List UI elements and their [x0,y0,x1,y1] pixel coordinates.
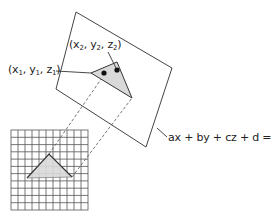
plane-triangle [91,62,132,98]
point-1-x-sub: 1 [18,69,22,77]
point-2-z-sub: 2 [113,44,117,52]
diagram-canvas [0,0,274,217]
equation-leader [157,128,167,137]
point-2-dot [114,67,119,72]
point-1-dot [101,70,106,75]
point-1-label: (x1, y1, z1) [8,64,60,79]
point-1-leader [56,71,91,73]
point-1-z-sub: 1 [52,69,56,77]
point-2-label: (x2, y2, z2) [69,39,121,54]
point-1-y-sub: 1 [36,69,40,77]
plane-equation-label: ax + by + cz + d = 0 [168,132,274,144]
point-2-y-sub: 2 [97,44,101,52]
point-2-x-sub: 2 [79,44,83,52]
